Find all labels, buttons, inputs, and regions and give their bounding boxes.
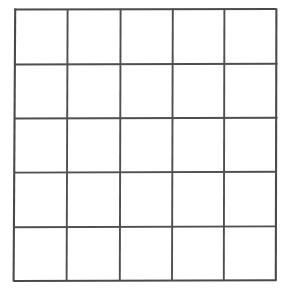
grid-cell[interactable] [120,172,172,227]
grid-cell[interactable] [67,172,120,227]
grid-line-horizontal-bottom [14,280,277,281]
grid-cell[interactable] [172,64,224,118]
grid-cells [14,9,276,281]
grid-canvas [0,0,294,291]
grid-cell[interactable] [67,9,120,64]
grid-cell[interactable] [224,9,276,64]
grid-cell[interactable] [224,172,276,227]
grid-cell[interactable] [67,227,120,281]
grid-line-horizontal-1 [15,64,278,65]
grid-line-horizontal-4 [14,226,277,227]
grid-cell[interactable] [172,172,224,227]
grid-line-vertical-4 [224,9,225,281]
grid-line-vertical-2 [120,9,121,281]
grid-cell[interactable] [14,9,67,64]
grid-line-horizontal-2 [14,118,278,119]
grid-cell[interactable] [224,64,276,118]
grid-cell[interactable] [14,227,67,281]
grid-line-vertical-1 [67,9,68,281]
grid-cell[interactable] [120,227,172,281]
grid-cell[interactable] [172,9,224,64]
grid-cell[interactable] [14,118,67,172]
grid-cell[interactable] [172,227,224,281]
grid-line-vertical-3 [172,9,173,281]
grid-cell[interactable] [120,9,172,64]
grid-line-horizontal-top [15,9,277,10]
grid-cell[interactable] [224,118,276,172]
grid-cell[interactable] [14,64,67,118]
grid-cell[interactable] [172,118,224,172]
grid-cell[interactable] [120,64,172,118]
grid-cell[interactable] [120,118,172,172]
grid-line-vertical-right [276,9,277,281]
grid-cell[interactable] [14,172,67,227]
grid-cell[interactable] [224,227,276,281]
grid-cell[interactable] [67,118,120,172]
grid-cell[interactable] [67,64,120,118]
grid-drawing [0,0,294,291]
grid-line-horizontal-3 [14,172,277,173]
